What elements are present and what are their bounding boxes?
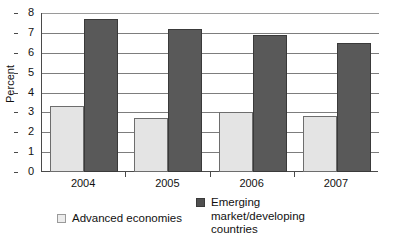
y-tick-mark	[14, 152, 18, 153]
y-tick-label: 1	[18, 146, 34, 157]
y-tick-mark	[14, 73, 18, 74]
bar-2006-series-1	[253, 35, 287, 172]
x-tick-mark	[125, 172, 126, 177]
y-tick-label: 3	[18, 106, 34, 117]
y-axis-tick-labels: 012345678	[18, 13, 34, 172]
chart-legend: Advanced economies Emerging market/devel…	[0, 196, 397, 250]
y-axis-title: Percent	[4, 49, 16, 119]
y-tick-label: 7	[18, 27, 34, 38]
y-tick-mark	[14, 13, 18, 14]
y-tick-label: 4	[18, 87, 34, 98]
x-tick-label-2004: 2004	[53, 177, 113, 189]
bar-2004-series-1	[84, 19, 118, 172]
x-tick-label-2007: 2007	[306, 177, 366, 189]
bar-group-2004	[50, 13, 118, 172]
y-tick-mark	[14, 132, 18, 133]
y-tick-mark	[14, 53, 18, 54]
plot-region: Percent 012345678 2004200520062007	[0, 0, 397, 190]
legend-label-advanced-economies: Advanced economies	[72, 212, 182, 226]
legend-swatch-icon-emerging-market-developing-countries	[196, 198, 205, 207]
x-tick-mark	[294, 172, 295, 177]
y-tick-mark	[14, 172, 18, 173]
x-axis-tick-labels: 2004200520062007	[41, 172, 378, 190]
x-tick-label-2005: 2005	[137, 177, 197, 189]
plot-area	[41, 13, 378, 172]
legend-item-advanced-economies: Advanced economies	[57, 212, 182, 226]
y-tick-label: 8	[18, 7, 34, 18]
bar-2006-series-0	[219, 112, 253, 172]
bar-group-2007	[303, 13, 371, 172]
bar-2007-series-0	[303, 116, 337, 172]
bar-2007-series-1	[337, 43, 371, 172]
bar-2005-series-0	[134, 118, 168, 172]
bar-chart-figure: Percent 012345678 2004200520062007 Advan…	[0, 0, 397, 250]
bar-2005-series-1	[168, 29, 202, 172]
bar-group-2006	[219, 13, 287, 172]
y-tick-label: 5	[18, 67, 34, 78]
y-tick-label: 2	[18, 126, 34, 137]
y-tick-label: 6	[18, 47, 34, 58]
legend-label-emerging-market-developing-countries: Emerging market/developing countries	[211, 196, 305, 237]
y-tick-mark	[14, 112, 18, 113]
bar-group-2005	[134, 13, 202, 172]
bar-2004-series-0	[50, 106, 84, 172]
legend-item-emerging-market-developing-countries: Emerging market/developing countries	[196, 196, 305, 237]
legend-swatch-icon-advanced-economies	[57, 214, 66, 223]
x-tick-mark	[210, 172, 211, 177]
bars-layer	[42, 13, 379, 172]
y-tick-mark	[14, 33, 18, 34]
x-tick-label-2006: 2006	[222, 177, 282, 189]
y-tick-label: 0	[18, 166, 34, 177]
y-tick-mark	[14, 93, 18, 94]
